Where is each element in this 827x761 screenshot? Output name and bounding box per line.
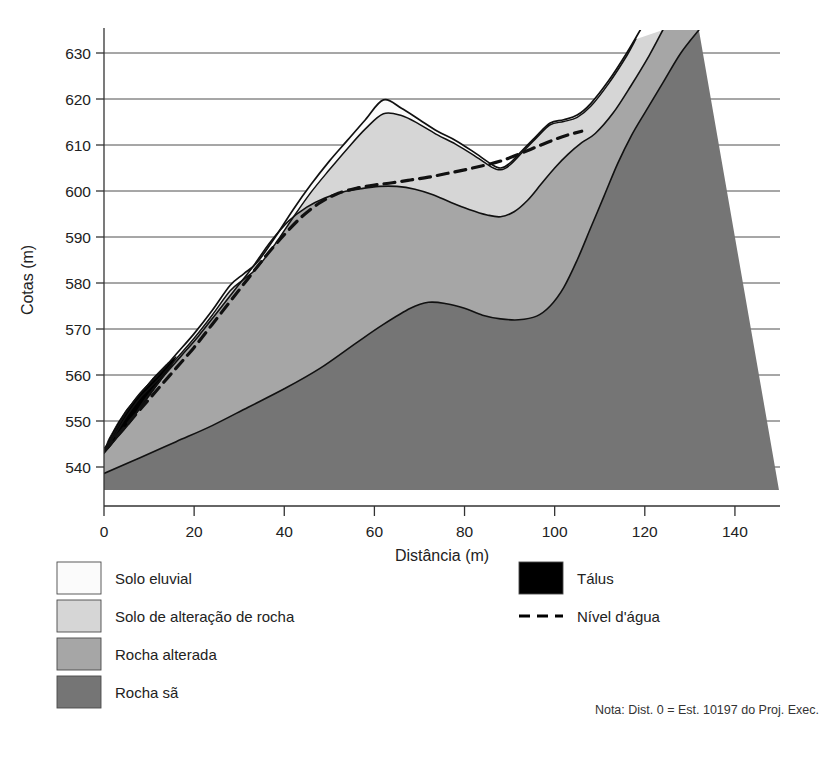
x-tick-label: 20 <box>186 523 204 540</box>
legend-swatch <box>57 600 101 632</box>
y-tick-label: 630 <box>65 45 91 62</box>
legend-label: Tálus <box>577 570 614 587</box>
legend-right-column: TálusNível d'água <box>519 562 661 625</box>
y-tick-label: 550 <box>65 413 91 430</box>
y-tick-label: 570 <box>65 321 91 338</box>
x-tick-label: 0 <box>100 523 109 540</box>
legend-label: Rocha alterada <box>115 646 217 663</box>
y-tick-label: 560 <box>65 367 91 384</box>
x-tick-label: 80 <box>456 523 474 540</box>
x-tick-label: 100 <box>542 523 568 540</box>
x-tick-label: 60 <box>366 523 384 540</box>
legend-label: Rocha sã <box>115 684 179 701</box>
legend-label: Solo de alteração de rocha <box>115 608 295 625</box>
x-tick-label: 40 <box>276 523 294 540</box>
cross-section-chart: 5405505605705805906006106206300204060801… <box>0 0 827 761</box>
x-tick-label: 120 <box>632 523 658 540</box>
x-tick-label: 140 <box>722 523 748 540</box>
legend-label: Solo eluvial <box>115 570 192 587</box>
geological-cross-section-figure: 5405505605705805906006106206300204060801… <box>0 0 827 761</box>
y-tick-label: 620 <box>65 91 91 108</box>
legend-swatch <box>57 638 101 670</box>
legend-swatch <box>519 562 563 594</box>
y-tick-label: 600 <box>65 183 91 200</box>
y-tick-label: 610 <box>65 137 91 154</box>
legend-label: Nível d'água <box>577 608 661 625</box>
legend-swatch <box>57 562 101 594</box>
x-axis-title: Distância (m) <box>395 547 489 564</box>
y-tick-label: 590 <box>65 229 91 246</box>
y-tick-label: 540 <box>65 459 91 476</box>
y-axis-title: Cotas (m) <box>19 245 36 315</box>
legend-left-column: Solo eluvialSolo de alteração de rochaRo… <box>57 562 295 708</box>
chart-note: Nota: Dist. 0 = Est. 10197 do Proj. Exec… <box>595 703 819 717</box>
legend-swatch <box>57 676 101 708</box>
strata-bands <box>104 30 780 496</box>
y-tick-label: 580 <box>65 275 91 292</box>
